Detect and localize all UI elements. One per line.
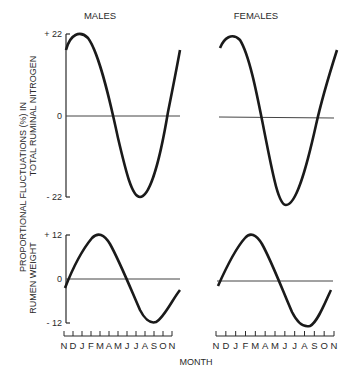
month-label: J bbox=[125, 340, 130, 351]
month-label: A bbox=[301, 340, 308, 351]
chart-canvas: MALES FEMALES PROPORTIONAL FLUCTUATIONS … bbox=[0, 0, 345, 374]
month-label: J bbox=[134, 340, 139, 351]
month-label: M bbox=[271, 340, 279, 351]
month-label: M bbox=[96, 340, 104, 351]
month-label: D bbox=[222, 340, 229, 351]
tick-top-max: + 22 bbox=[44, 29, 62, 39]
month-label: A bbox=[106, 340, 113, 351]
month-label: S bbox=[151, 340, 157, 351]
tick-top-zero: 0 bbox=[57, 111, 62, 121]
month-label: J bbox=[80, 340, 85, 351]
x-axis-label: MONTH bbox=[180, 357, 213, 367]
month-label: A bbox=[262, 340, 269, 351]
nitrogen-females-curve bbox=[220, 36, 337, 205]
panel-title-males: MALES bbox=[84, 10, 116, 21]
month-axis-left: NDJFMAMJJASON bbox=[61, 331, 176, 351]
month-label: J bbox=[233, 340, 238, 351]
month-label: O bbox=[159, 340, 166, 351]
panel-title-females: FEMALES bbox=[234, 10, 278, 21]
month-label: N bbox=[61, 340, 68, 351]
month-label: N bbox=[213, 340, 220, 351]
rumen-females-curve bbox=[218, 235, 331, 327]
month-label: A bbox=[142, 340, 149, 351]
month-label: M bbox=[114, 340, 122, 351]
month-label: J bbox=[282, 340, 287, 351]
month-label: D bbox=[70, 340, 77, 351]
tick-bottom-min: - 12 bbox=[46, 318, 62, 328]
y-axis-label-nitrogen: TOTAL RUMINAL NITROGEN bbox=[28, 56, 38, 177]
month-label: N bbox=[331, 340, 338, 351]
month-label: F bbox=[88, 340, 94, 351]
y-axis-label-rumen: RUMEN WEIGHT bbox=[28, 242, 38, 314]
month-label: F bbox=[243, 340, 249, 351]
tick-top-min: - 22 bbox=[46, 192, 62, 202]
month-label: M bbox=[251, 340, 259, 351]
month-axis-right: NDJFMAMJJASON bbox=[213, 331, 338, 351]
month-label: O bbox=[320, 340, 327, 351]
month-label: S bbox=[311, 340, 317, 351]
y-axis-label-line1: PROPORTIONAL FLUCTUATIONS (%) IN bbox=[18, 102, 28, 272]
tick-bottom-max: + 12 bbox=[44, 230, 62, 240]
tick-bottom-zero: 0 bbox=[57, 274, 62, 284]
month-label: N bbox=[169, 340, 176, 351]
month-label: J bbox=[292, 340, 297, 351]
